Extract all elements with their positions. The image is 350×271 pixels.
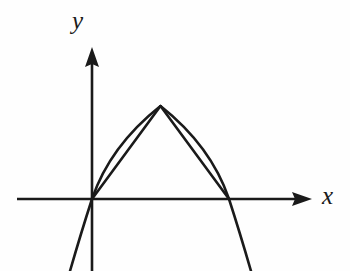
x-axis-label: x	[322, 183, 333, 208]
y-axis-arrow-icon	[85, 47, 99, 67]
math-figure: y x	[0, 0, 350, 271]
y-axis-group	[85, 47, 99, 271]
x-axis-group	[17, 192, 312, 206]
chord-right-segment	[161, 106, 230, 199]
parabola-curve	[70, 106, 251, 271]
plot-canvas	[0, 0, 350, 271]
x-axis-arrow-icon	[292, 192, 312, 206]
y-axis-label: y	[72, 8, 83, 33]
chord-left-segment	[92, 106, 161, 199]
